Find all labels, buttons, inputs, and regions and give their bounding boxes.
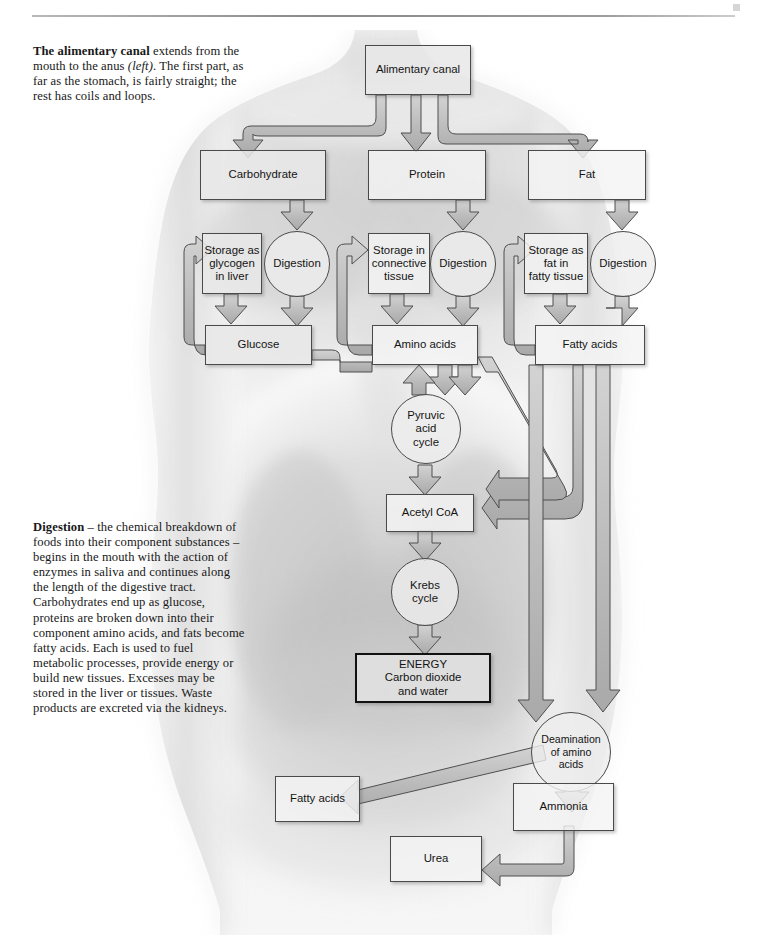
node-fatty-acids[interactable]: Fatty acids	[535, 325, 645, 365]
node-deamination[interactable]: Deamination of amino acids	[531, 712, 611, 792]
node-storage-glycogen-line3: in liver	[216, 270, 249, 283]
node-krebs-cycle[interactable]: Krebs cycle	[391, 558, 459, 626]
node-protein-label: Protein	[409, 168, 445, 181]
node-storage-fat-line3: fatty tissue	[529, 270, 583, 283]
node-acetyl-coa[interactable]: Acetyl CoA	[386, 494, 474, 532]
node-carbohydrate-label: Carbohydrate	[228, 168, 297, 181]
page-canvas: The alimentary canal extends from the mo…	[0, 0, 757, 945]
node-storage-fat-line2: fat in	[544, 257, 569, 270]
node-digestion-fat[interactable]: Digestion	[590, 231, 656, 297]
node-storage-fat[interactable]: Storage as fat in fatty tissue	[524, 233, 588, 294]
node-carbohydrate[interactable]: Carbohydrate	[200, 150, 326, 200]
node-storage-glycogen-line2: glycogen	[209, 257, 255, 270]
node-acetyl-coa-label: Acetyl CoA	[402, 506, 458, 519]
node-ammonia[interactable]: Ammonia	[513, 783, 614, 831]
node-storage-connective[interactable]: Storage in connective tissue	[368, 233, 430, 294]
node-storage-connective-line2: connective	[372, 257, 426, 270]
node-pyruvic-line3: cycle	[413, 436, 439, 449]
node-urea[interactable]: Urea	[390, 836, 482, 882]
node-amino-acids-label: Amino acids	[394, 338, 456, 351]
node-energy[interactable]: ENERGY Carbon dioxide and water	[355, 653, 491, 703]
node-storage-glycogen[interactable]: Storage as glycogen in liver	[202, 233, 262, 294]
node-storage-glycogen-line1: Storage as	[204, 244, 259, 257]
node-storage-connective-line3: tissue	[384, 270, 414, 283]
node-digestion-fat-label: Digestion	[599, 257, 647, 270]
node-deamination-line3: acids	[559, 758, 584, 770]
node-pyruvic-line1: Pyruvic	[407, 409, 444, 422]
node-fatty-acids-output[interactable]: Fatty acids	[275, 776, 360, 822]
node-fat-label: Fat	[579, 168, 595, 181]
node-ammonia-label: Ammonia	[539, 800, 587, 813]
node-krebs-line2: cycle	[412, 592, 438, 605]
node-glucose[interactable]: Glucose	[205, 325, 312, 365]
node-energy-line2: Carbon dioxide	[385, 671, 462, 684]
flow-arrows	[0, 0, 757, 945]
node-digestion-carbohydrate-label: Digestion	[273, 257, 321, 270]
node-digestion-protein[interactable]: Digestion	[430, 231, 496, 297]
node-storage-fat-line1: Storage as	[528, 244, 583, 257]
node-fatty-acids-label: Fatty acids	[562, 338, 617, 351]
node-storage-connective-line1: Storage in	[373, 244, 425, 257]
node-pyruvic-line2: acid	[416, 422, 437, 435]
node-fatty-acids-output-label: Fatty acids	[290, 792, 345, 805]
node-amino-acids[interactable]: Amino acids	[372, 325, 478, 365]
node-alimentary-canal[interactable]: Alimentary canal	[365, 45, 471, 95]
node-alimentary-canal-label: Alimentary canal	[376, 63, 460, 76]
node-krebs-line1: Krebs	[410, 579, 440, 592]
node-energy-line3: and water	[398, 685, 448, 698]
node-protein[interactable]: Protein	[368, 150, 486, 200]
node-fat[interactable]: Fat	[528, 150, 646, 200]
node-deamination-line1: Deamination	[541, 733, 600, 745]
node-urea-label: Urea	[424, 852, 449, 865]
node-glucose-label: Glucose	[238, 338, 280, 351]
node-deamination-line2: of amino	[551, 746, 592, 758]
node-pyruvic-acid-cycle[interactable]: Pyruvic acid cycle	[391, 394, 461, 464]
node-energy-line1: ENERGY	[399, 658, 447, 671]
node-digestion-protein-label: Digestion	[439, 257, 487, 270]
node-digestion-carbohydrate[interactable]: Digestion	[264, 231, 330, 297]
